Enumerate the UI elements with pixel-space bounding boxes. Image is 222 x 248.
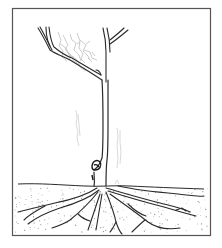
illustration-figure (0, 0, 222, 248)
tree-drawing (0, 0, 222, 248)
caption-fragment (12, 240, 212, 248)
